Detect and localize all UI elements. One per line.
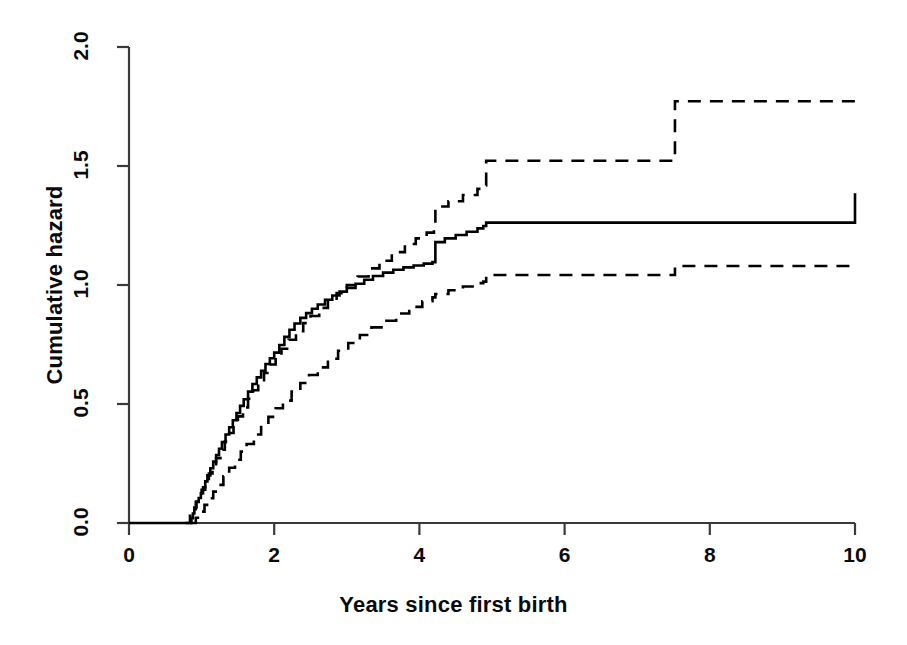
y-axis-ticks: [117, 47, 129, 523]
data-series-group: [129, 101, 855, 523]
x-tick-label: 8: [680, 543, 740, 567]
axis-lines: [129, 47, 855, 523]
x-axis-title: Years since first birth: [0, 592, 907, 618]
x-axis-ticks: [129, 523, 855, 535]
series-path: [191, 266, 855, 523]
x-tick-label: 10: [825, 543, 885, 567]
y-axis-title-wrap: Cumulative hazard: [0, 0, 100, 560]
x-tick-label: 0: [99, 543, 159, 567]
x-tick-label: 4: [389, 543, 449, 567]
x-tick-label: 6: [535, 543, 595, 567]
cumulative-hazard-figure: 0246810 0.00.51.01.52.0 Years since firs…: [0, 0, 907, 645]
series-path: [129, 193, 855, 523]
series-path: [186, 101, 855, 523]
y-axis-title: Cumulative hazard: [42, 75, 68, 495]
x-tick-label: 2: [244, 543, 304, 567]
